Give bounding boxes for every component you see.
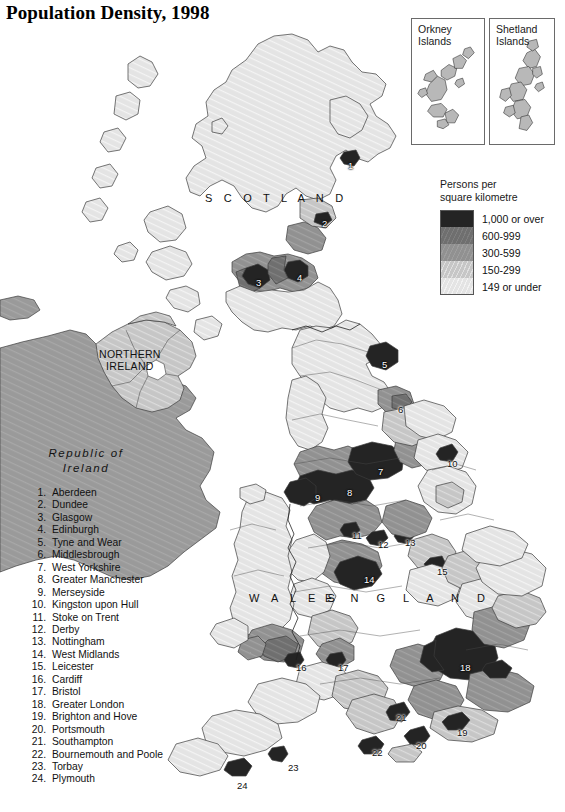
city-key-item: 19.Brighton and Hove [26, 711, 201, 723]
city-key-name: West Midlands [52, 649, 119, 661]
region-label-roi-line2: Ireland [26, 461, 146, 476]
city-key-number: 9. [26, 587, 46, 599]
legend-swatch [440, 244, 474, 261]
city-key-name: Tyne and Wear [52, 537, 122, 549]
legend-row: 149 or under [440, 278, 565, 295]
city-key-number: 19. [26, 711, 46, 723]
city-key-number: 8. [26, 574, 46, 586]
city-key-name: Greater Manchester [52, 574, 144, 586]
city-key-number: 4. [26, 524, 46, 536]
legend-swatch [440, 227, 474, 244]
city-key-item: 1.Aberdeen [26, 487, 201, 499]
map-marker-6: 6 [398, 404, 403, 415]
map-marker-8: 8 [347, 487, 352, 498]
legend-title-line2: square kilometre [440, 191, 565, 204]
city-key-number: 23. [26, 761, 46, 773]
inset-shetland-label-line1: Shetland [496, 23, 537, 35]
city-key-list: 1.Aberdeen2.Dundee3.Glasgow4.Edinburgh5.… [26, 487, 201, 786]
map-marker-24: 24 [237, 780, 248, 791]
region-northern-england [284, 320, 476, 514]
map-marker-9: 9 [315, 492, 320, 503]
city-key-name: Glasgow [52, 512, 92, 524]
region-label-northern-ireland-line2: IRELAND [99, 360, 161, 372]
city-key-number: 2. [26, 499, 46, 511]
city-key-name: Nottingham [52, 636, 105, 648]
city-key-item: 4.Edinburgh [26, 524, 201, 536]
city-key-item: 20.Portsmouth [26, 724, 201, 736]
map-marker-14: 14 [364, 574, 375, 585]
inset-orkney-label: Orkney Islands [418, 23, 452, 47]
city-key-number: 21. [26, 736, 46, 748]
city-key-name: Edinburgh [52, 524, 99, 536]
city-key-name: Middlesbrough [52, 549, 120, 561]
city-key-number: 20. [26, 724, 46, 736]
city-key-name: Plymouth [52, 773, 95, 785]
map-marker-22: 22 [372, 747, 383, 758]
inset-orkney-islands: Orkney Islands [411, 18, 485, 145]
city-key-item: 22.Bournemouth and Poole [26, 749, 201, 761]
map-marker-23: 23 [288, 762, 299, 773]
region-label-roi-line1: Republic of [26, 446, 146, 461]
legend-row: 1,000 or over [440, 210, 565, 227]
city-key-number: 5. [26, 537, 46, 549]
legend-label: 149 or under [482, 281, 542, 293]
city-key-name: West Yorkshire [52, 562, 121, 574]
city-key-number: 15. [26, 661, 46, 673]
legend-label: 600-999 [482, 230, 521, 242]
map-marker-15: 15 [437, 566, 448, 577]
legend-row: 300-599 [440, 244, 565, 261]
city-key-name: Bournemouth and Poole [52, 749, 163, 761]
city-key-number: 1. [26, 487, 46, 499]
legend-label: 300-599 [482, 247, 521, 259]
city-key-number: 3. [26, 512, 46, 524]
city-key-number: 10. [26, 599, 46, 611]
city-key-name: Stoke on Trent [52, 612, 119, 624]
city-key-item: 17.Bristol [26, 686, 201, 698]
map-marker-13: 13 [405, 537, 416, 548]
legend: Persons per square kilometre 1,000 or ov… [440, 178, 565, 295]
map-marker-18: 18 [460, 662, 471, 673]
inset-orkney-label-line1: Orkney [418, 23, 452, 35]
map-marker-3: 3 [256, 277, 261, 288]
map-marker-16: 16 [296, 662, 307, 673]
map-marker-12: 12 [378, 539, 389, 550]
map-marker-11: 11 [352, 530, 362, 541]
city-key-item: 16.Cardiff [26, 674, 201, 686]
map-marker-20: 20 [416, 740, 427, 751]
city-key-name: Brighton and Hove [52, 711, 137, 723]
city-key-item: 14.West Midlands [26, 649, 201, 661]
city-key-name: Aberdeen [52, 487, 97, 499]
inset-shetland-label-line2: Islands [496, 35, 537, 47]
city-key-item: 2.Dundee [26, 499, 201, 511]
region-label-england: E N G L A N D [325, 592, 492, 604]
city-key-name: Derby [52, 624, 79, 636]
city-key-number: 17. [26, 686, 46, 698]
city-key-item: 21.Southampton [26, 736, 201, 748]
city-key-name: Portsmouth [52, 724, 105, 736]
city-key-item: 24.Plymouth [26, 773, 201, 785]
city-key-item: 13.Nottingham [26, 636, 201, 648]
inset-orkney-label-line2: Islands [418, 35, 452, 47]
city-key-number: 24. [26, 773, 46, 785]
city-key-item: 9.Merseyside [26, 587, 201, 599]
city-key-name: Leicester [52, 661, 94, 673]
legend-swatch [440, 278, 474, 295]
city-key-item: 18.Greater London [26, 699, 201, 711]
legend-row: 600-999 [440, 227, 565, 244]
map-marker-1: 1 [348, 160, 353, 171]
legend-rows: 1,000 or over600-999300-599150-299149 or… [440, 210, 565, 295]
legend-row: 150-299 [440, 261, 565, 278]
region-label-northern-ireland: NORTHERN IRELAND [99, 348, 161, 372]
city-key-item: 11.Stoke on Trent [26, 612, 201, 624]
region-label-northern-ireland-line1: NORTHERN [99, 348, 161, 360]
city-key-number: 11. [26, 612, 46, 624]
city-key-item: 12.Derby [26, 624, 201, 636]
map-marker-17: 17 [338, 662, 349, 673]
city-key-item: 15.Leicester [26, 661, 201, 673]
city-key-item: 7.West Yorkshire [26, 562, 201, 574]
city-key-number: 16. [26, 674, 46, 686]
city-key-name: Torbay [52, 761, 83, 773]
city-key-number: 14. [26, 649, 46, 661]
legend-title-line1: Persons per [440, 178, 565, 191]
city-key-number: 22. [26, 749, 46, 761]
